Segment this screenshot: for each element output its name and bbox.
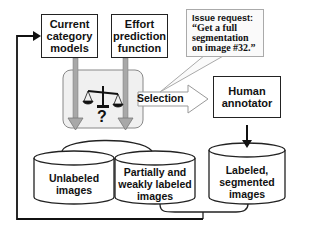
human-annotator-box: Human annotator [213, 76, 281, 118]
feedback-arrowhead [33, 31, 41, 41]
selection-label: Selection [137, 92, 184, 104]
effort-prediction-function-box: Effort prediction function [111, 14, 168, 58]
current-category-models-box: Current category models [41, 14, 98, 58]
current-category-models-label: Current category models [42, 18, 97, 54]
labeled-segmented-label: Labeled, segmented images [211, 164, 283, 200]
partially-weakly-labeled-label: Partially and weakly labeled images [116, 166, 194, 202]
human-annotator-label: Human annotator [214, 85, 280, 109]
issue-request-callout: Issue request: “Get a full segmentation … [186, 9, 264, 57]
question-mark: ? [97, 108, 107, 126]
callout-quote-line: on image #32.” [192, 43, 258, 53]
effort-prediction-function-label: Effort prediction function [112, 18, 167, 54]
unlabeled-images-label: Unlabeled images [36, 172, 112, 196]
